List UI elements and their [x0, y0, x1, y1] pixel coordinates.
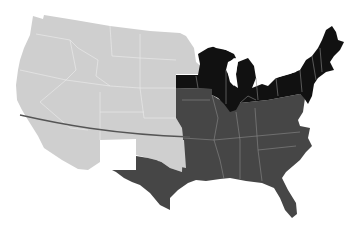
us-map [0, 0, 360, 234]
map-svg [0, 0, 360, 234]
